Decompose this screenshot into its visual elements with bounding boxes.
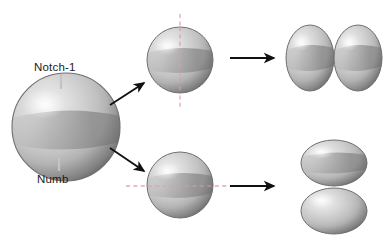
daughter-cell-right: [334, 25, 382, 91]
arrow-parent-to-horizontal: [110, 148, 144, 171]
arrow-parent-to-vertical: [110, 83, 144, 105]
cell-division-figure: Notch-1 Numb: [0, 0, 390, 241]
figure-canvas: [0, 0, 390, 241]
daughter-cell-bottom: [301, 188, 367, 234]
notch1-label: Notch-1: [34, 61, 76, 73]
stacked-daughter-cells: [301, 140, 367, 234]
daughter-cell-top: [301, 140, 367, 186]
horizontal-cleavage-cell: [147, 152, 213, 218]
daughter-cell-left: [286, 25, 334, 91]
side-by-side-daughter-cells: [286, 25, 382, 91]
numb-label: Numb: [37, 173, 68, 185]
parent-cell: [12, 73, 120, 181]
